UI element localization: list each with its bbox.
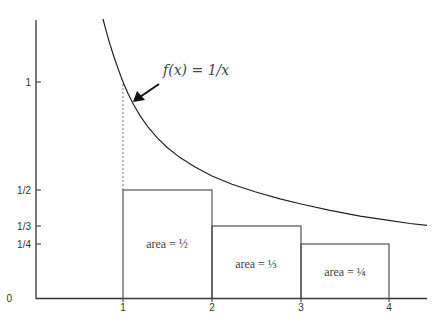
y-tick-label-1: 1 <box>25 77 31 88</box>
y-tick-label-third: 1/3 <box>17 221 31 232</box>
area-label-3: area = ¼ <box>324 265 366 279</box>
y-tick-label-0: 0 <box>6 293 12 304</box>
y-tick-label-quarter: 1/4 <box>17 239 31 250</box>
y-tick-label-half: 1/2 <box>17 185 31 196</box>
function-label: f(x) = 1/x <box>162 62 229 78</box>
area-label-2: area = ⅓ <box>235 257 277 271</box>
y-ticks <box>36 82 41 244</box>
curve-one-over-x <box>103 19 427 225</box>
x-tick-label-4: 4 <box>386 302 392 313</box>
arrow-head-icon <box>133 91 145 102</box>
x-tick-label-2: 2 <box>209 302 215 313</box>
annotation-arrow-shaft <box>140 84 159 97</box>
x-tick-label-1: 1 <box>120 302 126 313</box>
area-label-1: area = ½ <box>146 237 188 251</box>
riemann-sum-chart: 1 1/2 1/3 1/4 0 1 2 3 4 f(x) = 1/x area … <box>0 0 443 328</box>
x-tick-label-3: 3 <box>298 302 304 313</box>
